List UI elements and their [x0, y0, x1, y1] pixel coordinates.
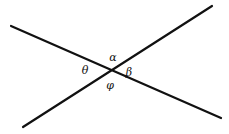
line-down-right — [11, 26, 221, 118]
angle-label-alpha: α — [109, 52, 116, 63]
angle-diagram-figure: α θ β φ — [0, 0, 229, 134]
angle-label-phi: φ — [106, 80, 114, 91]
line-up-right — [23, 6, 212, 127]
diagram-canvas — [0, 0, 229, 134]
angle-label-theta: θ — [82, 65, 89, 76]
angle-label-beta: β — [126, 67, 132, 78]
